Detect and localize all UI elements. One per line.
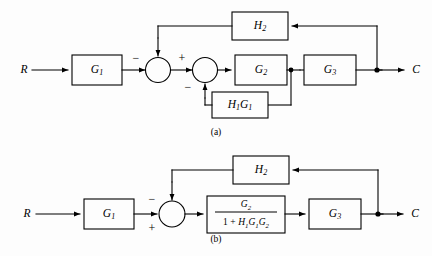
sum2-a-sign-left: + [179, 51, 186, 65]
tf-den-one: 1 [223, 217, 228, 227]
block-g2-a-sub: 2 [263, 68, 267, 77]
input-label-r-a: R [19, 63, 27, 75]
caption-b: (b) [210, 234, 221, 245]
block-h1g1-a-g-sub: 1 [248, 103, 252, 112]
block-g3-b-sub: 3 [336, 212, 341, 221]
sum2-a-sign-bottom: − [185, 80, 192, 94]
sum1-a-sign-left: − [133, 51, 140, 65]
output-label-c-a: C [412, 63, 420, 75]
block-g1-a-sub: 1 [99, 68, 103, 77]
summing-junction-1-a [146, 58, 171, 83]
input-label-r-b: R [22, 207, 30, 219]
summing-junction-2-a [193, 58, 218, 83]
figure-canvas: R G1 − + − [0, 0, 432, 256]
diagram-b-group: R G1 − + G2 1+H1G1G2 [22, 156, 419, 245]
block-g1-b-sub: 1 [111, 212, 115, 221]
sum-b-sign-top: − [149, 192, 156, 206]
caption-a: (a) [211, 127, 222, 138]
block-h2-b-sub: 2 [263, 168, 267, 177]
tf-den-g2-sub: 2 [266, 221, 270, 228]
summing-junction-b [159, 201, 185, 227]
block-h2-a-sub: 2 [262, 24, 266, 33]
block-diagram-svg: R G1 − + − [0, 0, 432, 256]
sum-b-sign-bottom: + [149, 221, 156, 235]
diagram-a-group: R G1 − + − [19, 12, 420, 138]
block-g3-a-sub: 3 [331, 68, 336, 77]
tf-num-sub: 2 [248, 203, 252, 210]
tf-den-plus: + [230, 217, 235, 227]
output-label-c-b: C [411, 207, 419, 219]
